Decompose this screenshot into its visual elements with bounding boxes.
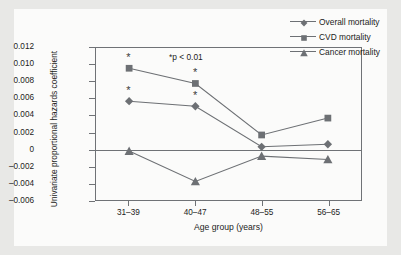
y-tick-label: –0.006 — [0, 197, 34, 205]
legend-label: Overall mortality — [316, 17, 380, 27]
y-tick-mark — [89, 64, 95, 65]
legend-label: Cancer mortality — [316, 47, 380, 57]
data-point — [125, 97, 133, 105]
data-point — [325, 115, 332, 122]
y-tick-label: 0.004 — [0, 111, 34, 119]
series-line-cancer-mortality — [129, 151, 328, 181]
y-tick-mark — [89, 167, 95, 168]
series-line-cvd-mortality — [129, 68, 328, 135]
legend-label: CVD mortality — [316, 32, 371, 42]
y-axis-label: Univariate proportional hazards coeffici… — [49, 44, 59, 214]
y-tick-mark — [89, 201, 95, 202]
legend: Overall mortalityCVD mortalityCancer mor… — [288, 12, 383, 61]
x-tick-label: 56–65 — [299, 208, 359, 217]
legend-marker-triangle-icon — [290, 46, 316, 58]
legend-item[interactable]: CVD mortality — [290, 29, 380, 44]
data-point — [324, 140, 332, 148]
y-tick-label: 0.002 — [0, 128, 34, 136]
significance-asterisk: * — [193, 90, 197, 101]
x-tick-label: 48–55 — [232, 208, 292, 217]
data-point — [125, 146, 134, 154]
zero-reference-line — [95, 150, 362, 151]
y-tick-mark — [89, 98, 95, 99]
y-tick-label: –0.004 — [0, 180, 34, 188]
x-tick-mark — [128, 201, 129, 206]
p-value-annotation: *p < 0.01 — [169, 52, 203, 62]
data-point — [258, 132, 265, 139]
y-tick-mark — [89, 133, 95, 134]
x-tick-label: 40–47 — [165, 208, 225, 217]
data-point — [191, 102, 199, 110]
significance-asterisk: * — [126, 51, 130, 62]
x-axis-label: Age group (years) — [95, 222, 362, 232]
x-tick-label: 31–39 — [98, 208, 158, 217]
y-tick-label: 0.006 — [0, 94, 34, 102]
legend-marker-square-icon — [290, 31, 316, 43]
data-point — [192, 80, 199, 87]
x-tick-mark — [195, 201, 196, 206]
y-tick-label: 0 — [0, 146, 34, 154]
legend-item[interactable]: Cancer mortality — [290, 44, 380, 59]
y-tick-mark — [89, 81, 95, 82]
significance-asterisk: * — [126, 84, 130, 95]
data-point — [191, 177, 200, 185]
x-tick-mark — [329, 201, 330, 206]
y-tick-mark — [89, 184, 95, 185]
y-tick-mark — [89, 115, 95, 116]
y-tick-label: 0.012 — [0, 43, 34, 51]
legend-item[interactable]: Overall mortality — [290, 14, 380, 29]
x-tick-mark — [262, 201, 263, 206]
figure-panel: Univariate proportional hazards coeffici… — [14, 9, 387, 246]
data-point — [126, 65, 133, 72]
plot-area — [95, 47, 362, 201]
series-canvas — [96, 48, 361, 200]
y-tick-label: 0.010 — [0, 60, 34, 68]
y-tick-mark — [89, 47, 95, 48]
y-tick-label: 0.008 — [0, 77, 34, 85]
y-tick-label: –0.002 — [0, 163, 34, 171]
series-line-overall-mortality — [129, 101, 328, 147]
significance-asterisk: * — [193, 66, 197, 77]
legend-marker-diamond-icon — [290, 16, 316, 28]
